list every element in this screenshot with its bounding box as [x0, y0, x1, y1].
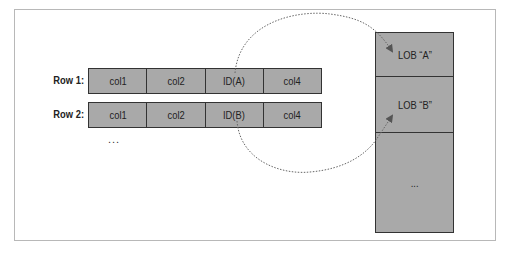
- pointer-b-arrow: [237, 116, 392, 172]
- pointer-arrows: [0, 0, 508, 254]
- pointer-a-arrow: [235, 13, 392, 73]
